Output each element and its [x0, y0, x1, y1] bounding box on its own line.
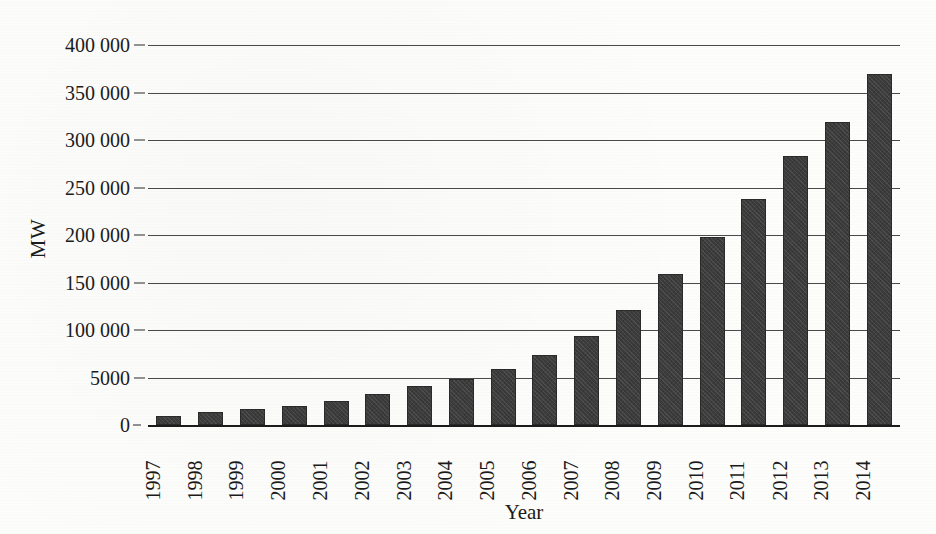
x-axis-title: Year — [148, 500, 900, 525]
bar-2009 — [658, 274, 683, 425]
x-tick-label-text: 2013 — [810, 460, 833, 500]
x-tick-label-text: 2000 — [267, 460, 290, 500]
plot-area — [148, 45, 900, 425]
x-tick-label-text: 2012 — [768, 460, 791, 500]
bar-2001 — [324, 401, 349, 425]
y-tick-mark — [134, 235, 145, 236]
bar-2014 — [867, 74, 892, 426]
x-tick-label-text: 2011 — [726, 460, 749, 499]
x-tick-label-text: 2005 — [476, 460, 499, 500]
y-tick-mark — [134, 140, 145, 141]
y-tick-mark — [133, 425, 141, 426]
x-tick-label-text: 1999 — [225, 460, 248, 500]
x-tick-label-text: 2010 — [685, 460, 708, 500]
x-axis-tick-labels: 1997199819992000200120022003200420052006… — [148, 429, 900, 501]
x-tick-label-text: 2003 — [392, 460, 415, 500]
y-tick-mark — [134, 45, 145, 46]
x-tick-label-text: 1997 — [141, 460, 164, 500]
x-tick-label: 2014 — [843, 465, 915, 495]
y-tick-label: 250 000 — [65, 178, 130, 198]
bar-1997 — [156, 416, 181, 426]
y-tick-label: 300 000 — [65, 130, 130, 150]
bar-2013 — [825, 122, 850, 425]
x-axis-title-label: Year — [505, 500, 544, 524]
x-tick-label-text: 2001 — [309, 460, 332, 500]
x-tick-label-text: 2009 — [643, 460, 666, 500]
y-tick-mark — [134, 92, 145, 93]
x-tick-label-text: 2008 — [601, 460, 624, 500]
bar-series — [148, 45, 900, 425]
y-axis-title-label: MW — [27, 218, 52, 258]
bar-chart-figure: MW 05000100 000150 000200 000250 000300 … — [0, 0, 936, 534]
y-tick-label: 150 000 — [65, 273, 130, 293]
y-tick-label: 350 000 — [65, 83, 130, 103]
bar-2010 — [700, 237, 725, 425]
bar-1999 — [240, 409, 265, 425]
bar-2012 — [783, 156, 808, 425]
bar-2011 — [741, 199, 766, 425]
bar-2006 — [532, 355, 557, 425]
y-axis-tick-labels: 05000100 000150 000200 000250 000300 000… — [58, 0, 144, 534]
bar-2004 — [449, 379, 474, 425]
x-axis-baseline — [148, 425, 900, 427]
bar-2005 — [491, 369, 516, 425]
y-tick-mark — [134, 377, 145, 378]
bar-2008 — [616, 310, 641, 425]
bar-2000 — [282, 406, 307, 425]
x-tick-label-text: 2007 — [559, 460, 582, 500]
y-axis-title: MW — [22, 198, 56, 278]
y-tick-mark — [134, 187, 145, 188]
bar-2007 — [574, 336, 599, 425]
bar-2002 — [365, 394, 390, 425]
y-tick-label: 100 000 — [65, 320, 130, 340]
y-tick-label: 0 — [120, 415, 130, 435]
y-tick-label: 200 000 — [65, 225, 130, 245]
bar-1998 — [198, 412, 223, 425]
x-tick-label-text: 2004 — [434, 460, 457, 500]
x-tick-label-text: 2006 — [517, 460, 540, 500]
x-tick-label-text: 1998 — [183, 460, 206, 500]
y-tick-mark — [134, 282, 145, 283]
y-tick-label: 5000 — [90, 368, 130, 388]
bar-2003 — [407, 386, 432, 425]
x-tick-label-text: 2014 — [852, 460, 875, 500]
y-tick-label: 400 000 — [65, 35, 130, 55]
y-tick-mark — [134, 330, 145, 331]
x-tick-label-text: 2002 — [350, 460, 373, 500]
